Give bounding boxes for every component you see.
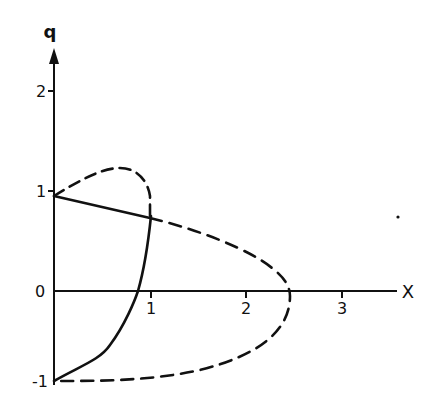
origin-label: 0 (35, 282, 45, 301)
phase-plot: q X 0 1 2 3 2 1 -1 (0, 0, 430, 419)
solid-curve (54, 216, 151, 381)
stray-dot (396, 215, 399, 218)
x-tick-label-3: 3 (337, 299, 347, 318)
curves (54, 168, 290, 381)
solid-straight-line (54, 196, 150, 218)
y-tick-label-m1: -1 (32, 372, 48, 391)
y-tick-label-1: 1 (36, 182, 46, 201)
x-tick-label-2: 2 (241, 299, 251, 318)
axes (54, 62, 397, 385)
ticks (48, 91, 342, 298)
y-axis-label: q (44, 21, 57, 42)
dashed-upper-loop (54, 168, 150, 218)
x-axis-label: X (402, 281, 414, 302)
dashed-outer-curve (54, 218, 290, 381)
y-tick-label-2: 2 (36, 82, 46, 101)
x-tick-label-1: 1 (146, 299, 156, 318)
y-axis-arrow-icon (49, 48, 59, 64)
